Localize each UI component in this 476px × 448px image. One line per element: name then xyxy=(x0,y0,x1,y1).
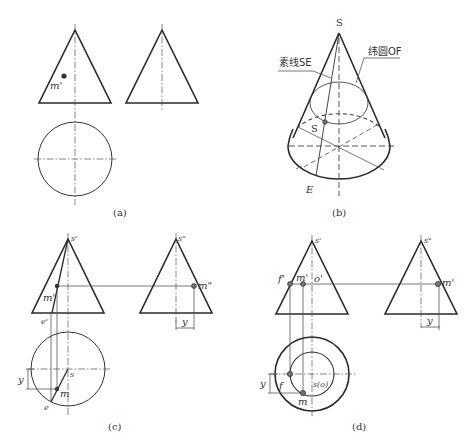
label-f-front-d: f' xyxy=(277,273,284,284)
point-f-front-d xyxy=(288,282,293,287)
label-y-side-d: y xyxy=(426,315,433,326)
caption-a: (a) xyxy=(113,207,127,218)
generatrix-SE-b xyxy=(316,33,339,176)
label-m-front-d: m' xyxy=(296,272,308,283)
label-s-o-top-d: s(o) xyxy=(313,380,328,389)
label-y-side-c: y xyxy=(181,316,188,327)
caption-c: (c) xyxy=(108,421,122,432)
label-s-front-d: s' xyxy=(315,236,321,245)
leader-generatrix-b xyxy=(278,71,331,78)
label-apex-S-b: S xyxy=(336,17,343,28)
label-point-E-b: E xyxy=(305,184,314,195)
point-on-generatrix-b xyxy=(323,120,327,124)
point-m-front-c xyxy=(55,284,59,288)
panel-d: s' f' m' o' s" m' y y f s(o) m (d) xyxy=(259,235,457,432)
panel-c: s' m' e' s" m" y y s m e (c) xyxy=(17,233,212,432)
label-m-front-a: m' xyxy=(50,80,62,91)
label-o-front-d: o' xyxy=(314,273,323,284)
label-point-S-b: S xyxy=(311,123,318,134)
caption-b: (b) xyxy=(332,207,346,218)
caption-d: (d) xyxy=(352,421,366,432)
point-m-side-d xyxy=(435,281,440,286)
label-latitude-circle-b: 纬圆OF xyxy=(368,45,402,57)
point-f-top-d xyxy=(287,371,292,376)
label-s-top-c: s xyxy=(70,370,74,379)
label-m-top-c: m xyxy=(60,388,69,399)
panel-a: m' (a) xyxy=(34,24,198,218)
leader-latitude-b xyxy=(356,58,400,83)
label-generatrix-b: 素线SE xyxy=(279,56,312,68)
label-m-front-c: m' xyxy=(43,292,55,303)
label-s-side-d: s" xyxy=(424,236,432,245)
point-m-front-a xyxy=(61,73,66,78)
panel-b: S 素线SE 纬圆OF S E (b) xyxy=(278,17,402,218)
label-f-top-d: f xyxy=(278,380,285,391)
label-s-side-c: s" xyxy=(178,234,186,243)
label-s-front-c: s' xyxy=(71,234,77,243)
label-m-side-d: m' xyxy=(442,277,454,288)
base-right-arc-b xyxy=(385,129,390,146)
label-e-front-c: e' xyxy=(41,317,48,326)
label-y-top-d: y xyxy=(259,378,266,389)
label-e-top-c: e xyxy=(44,403,49,412)
label-y-top-c: y xyxy=(17,374,24,385)
label-m-top-d: m xyxy=(298,396,307,407)
label-m-side-c: m" xyxy=(198,280,212,291)
base-left-arc-b xyxy=(288,129,293,146)
cone-projection-figure: m' (a) S 素线SE 纬圆OF xyxy=(0,0,476,448)
